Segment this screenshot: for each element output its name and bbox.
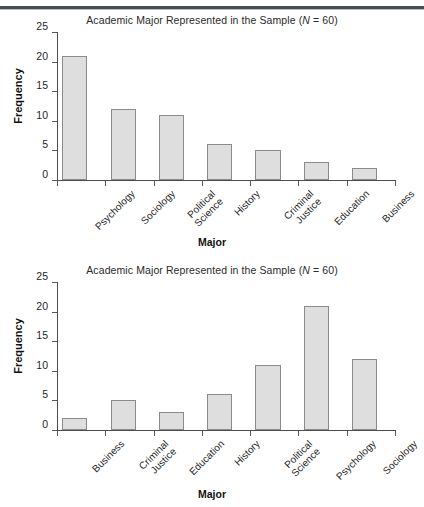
y-axis-tick <box>52 32 57 33</box>
x-axis-tick <box>395 181 396 186</box>
x-axis-category-label: CriminalJustice <box>137 438 178 479</box>
plot-area: Frequency 0510152025 BusinessCriminalJus… <box>0 280 424 440</box>
bar-chart-figure-alphabetical: Academic Major Represented in the Sample… <box>0 264 424 507</box>
page-top-rule-shadow <box>0 9 424 10</box>
bar <box>304 306 329 430</box>
bar <box>159 412 184 430</box>
bar <box>111 400 136 430</box>
y-axis-tick <box>52 62 57 63</box>
y-axis-tick-label: 5 <box>16 144 48 145</box>
x-axis-category-label: PoliticalScience <box>185 188 226 229</box>
x-axis-category-label: Sociology <box>380 438 418 476</box>
x-axis-category-label: Business <box>90 438 126 474</box>
x-axis-tick <box>105 431 106 436</box>
y-axis-title: Frequency <box>12 301 24 391</box>
x-axis-tick <box>57 431 58 436</box>
x-axis-tick <box>347 181 348 186</box>
bar <box>304 162 329 180</box>
x-axis-tick <box>347 431 348 436</box>
plot-area: Frequency 0510152025 PsychologySociology… <box>0 30 424 190</box>
x-axis-title: Major <box>0 488 424 500</box>
y-axis-tick-label: 20 <box>16 306 48 307</box>
x-axis-category-label: History <box>232 438 262 468</box>
x-axis-category-label: PoliticalScience <box>281 438 322 479</box>
y-axis-tick <box>52 91 57 92</box>
bar <box>207 394 232 430</box>
x-axis-tick <box>250 181 251 186</box>
x-axis-category-label: Sociology <box>139 188 177 226</box>
y-axis-line <box>57 32 58 180</box>
bar <box>159 115 184 180</box>
x-axis-tick <box>202 181 203 186</box>
y-axis-tick-label: 0 <box>16 174 48 175</box>
x-axis-line <box>57 180 396 181</box>
x-axis-tick <box>250 431 251 436</box>
x-axis-tick <box>57 181 58 186</box>
x-axis-tick <box>395 431 396 436</box>
y-axis-tick-label: 15 <box>16 335 48 336</box>
y-axis-tick <box>52 150 57 151</box>
x-axis-tick <box>105 181 106 186</box>
bar <box>111 109 136 180</box>
bar <box>62 418 87 430</box>
bar <box>352 359 377 430</box>
x-axis-category-label: Psychology <box>93 188 137 232</box>
y-axis-tick-label: 10 <box>16 115 48 116</box>
chart-title: Academic Major Represented in the Sample… <box>0 14 424 26</box>
x-axis-category-label: History <box>232 188 262 218</box>
y-axis-tick <box>52 121 57 122</box>
y-axis-tick-label: 10 <box>16 365 48 366</box>
bar <box>207 144 232 180</box>
bar-chart-figure-descending: Academic Major Represented in the Sample… <box>0 14 424 254</box>
x-axis-tick <box>298 181 299 186</box>
x-axis-category-label: Education <box>332 188 371 227</box>
x-axis-tick <box>202 431 203 436</box>
y-axis-tick-label: 25 <box>16 26 48 27</box>
y-axis-tick-label: 15 <box>16 85 48 86</box>
y-axis-tick <box>52 341 57 342</box>
bar <box>352 168 377 180</box>
x-axis-category-label: Education <box>187 438 226 477</box>
x-axis-tick <box>154 181 155 186</box>
y-axis-tick <box>52 400 57 401</box>
x-axis-tick <box>298 431 299 436</box>
bar <box>255 365 280 430</box>
y-axis-tick <box>52 282 57 283</box>
chart-title: Academic Major Represented in the Sample… <box>0 264 424 276</box>
bar <box>62 56 87 180</box>
y-axis-line <box>57 282 58 430</box>
y-axis-tick-label: 20 <box>16 56 48 57</box>
bar <box>255 150 280 180</box>
x-axis-title: Major <box>0 236 424 248</box>
y-axis-title: Frequency <box>12 51 24 141</box>
y-axis-tick <box>52 312 57 313</box>
y-axis-tick-label: 0 <box>16 424 48 425</box>
y-axis-tick-label: 25 <box>16 276 48 277</box>
y-axis-tick-label: 5 <box>16 394 48 395</box>
x-axis-line <box>57 430 396 431</box>
x-axis-tick <box>154 431 155 436</box>
x-axis-category-label: CriminalJustice <box>282 188 323 229</box>
y-axis-tick <box>52 371 57 372</box>
x-axis-category-label: Psychology <box>334 438 378 482</box>
x-axis-category-label: Business <box>379 188 415 224</box>
